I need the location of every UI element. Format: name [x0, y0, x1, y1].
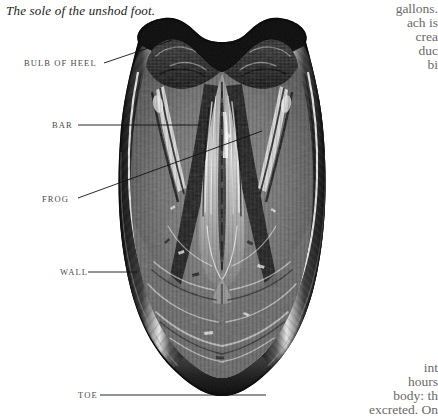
label-frog: FROG: [42, 194, 69, 204]
horse-hoof-sole-illustration: [108, 12, 338, 406]
label-bar: BAR: [52, 120, 73, 130]
label-bulb-of-heel: BULB OF HEEL: [24, 58, 97, 68]
book-page: The sole of the unshod foot.: [0, 0, 438, 418]
label-toe: TOE: [78, 390, 98, 400]
body-text-bottom-line-4: excreted. On: [369, 402, 438, 418]
body-text-line-5: bi: [427, 57, 438, 73]
label-wall: WALL: [60, 267, 88, 277]
